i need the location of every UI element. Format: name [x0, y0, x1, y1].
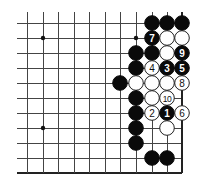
white-stone — [175, 31, 190, 46]
star-point-icon — [134, 36, 138, 40]
black-stone — [129, 121, 144, 136]
move-number-label: 3 — [164, 63, 170, 74]
white-stone — [145, 91, 160, 106]
white-stone-move-4: 4 — [145, 61, 160, 76]
white-stone-icon — [160, 121, 175, 136]
black-stone — [129, 46, 144, 61]
move-number-label: 10 — [163, 94, 172, 104]
black-stone-icon — [145, 151, 160, 166]
black-stone-move-7: 7 — [145, 31, 160, 46]
black-stone — [129, 106, 144, 121]
star-point-icon — [41, 36, 45, 40]
black-stone-move-9: 9 — [175, 46, 190, 61]
white-stone-move-8: 8 — [175, 76, 190, 91]
white-stone — [129, 76, 144, 91]
white-stone — [145, 76, 160, 91]
white-stone-move-6: 6 — [175, 106, 190, 121]
black-stone — [129, 136, 144, 151]
white-stone-icon — [160, 31, 175, 46]
move-number-label: 2 — [149, 108, 155, 119]
black-stone — [160, 151, 175, 166]
black-stone-icon — [145, 46, 160, 61]
black-stone-icon — [175, 16, 190, 31]
black-stone — [145, 16, 160, 31]
black-stone — [129, 61, 144, 76]
black-stone-icon — [160, 16, 175, 31]
white-stone-icon — [129, 76, 144, 91]
black-stone-move-5: 5 — [175, 61, 190, 76]
move-number-label: 8 — [179, 78, 185, 89]
black-stone-icon — [160, 151, 175, 166]
star-point-icon — [41, 126, 45, 130]
black-stone — [129, 91, 144, 106]
move-number-label: 7 — [149, 33, 155, 44]
move-number-label: 4 — [149, 63, 155, 74]
black-stone-icon — [129, 121, 144, 136]
black-stone-icon — [113, 76, 128, 91]
black-stone-icon — [129, 106, 144, 121]
white-stone-icon — [160, 46, 175, 61]
black-stone-move-1: 1 — [160, 106, 175, 121]
black-stone — [160, 16, 175, 31]
black-stone — [175, 16, 190, 31]
move-number-label: 6 — [179, 108, 185, 119]
black-stone — [113, 76, 128, 91]
white-stone — [160, 121, 175, 136]
white-stone — [160, 31, 175, 46]
black-stone — [145, 151, 160, 166]
black-stone-icon — [129, 61, 144, 76]
white-stone-icon — [160, 76, 175, 91]
black-stone — [145, 46, 160, 61]
go-board-diagram: 79435810216 — [0, 0, 202, 189]
move-number-label: 9 — [179, 48, 185, 59]
black-stone-icon — [129, 91, 144, 106]
white-stone-move-10: 10 — [160, 91, 175, 106]
move-number-label: 1 — [164, 108, 170, 119]
white-stone — [160, 76, 175, 91]
white-stone-move-2: 2 — [145, 106, 160, 121]
black-stone-move-3: 3 — [160, 61, 175, 76]
black-stone-icon — [129, 46, 144, 61]
move-number-label: 5 — [179, 63, 185, 74]
white-stone-icon — [175, 31, 190, 46]
white-stone — [160, 46, 175, 61]
black-stone-icon — [129, 136, 144, 151]
white-stone-icon — [145, 91, 160, 106]
black-stone-icon — [145, 16, 160, 31]
white-stone-icon — [145, 76, 160, 91]
